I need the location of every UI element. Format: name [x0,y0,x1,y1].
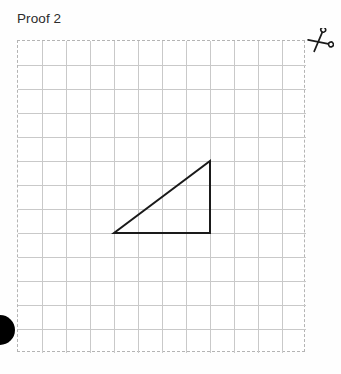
grid-lines [18,41,306,353]
worksheet-page: Proof 2 [0,0,341,374]
edge-dot [0,315,15,345]
scissors-glyph [306,28,334,56]
scissors-icon [306,28,334,56]
grid-panel [17,40,305,352]
page-title: Proof 2 [17,10,61,27]
